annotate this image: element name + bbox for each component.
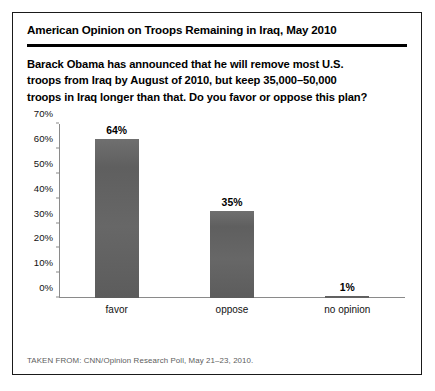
y-axis-tick-label: 40% [13, 182, 59, 193]
y-axis-tick-label: 10% [13, 257, 59, 268]
bar-group: 1%no opinion [299, 124, 395, 298]
chart-plot: 0%10%20%30%40%50%60%70% 64%favor35%oppos… [27, 116, 407, 321]
y-axis-tick-label: 70% [13, 108, 59, 119]
bar-group: 64%favor [69, 124, 165, 298]
source-note: TAKEN FROM: CNN/Opinion Research Poll, M… [27, 356, 253, 365]
bar-no-opinion[interactable] [325, 296, 369, 298]
y-axis-tick-label: 50% [13, 157, 59, 168]
page-title: American Opinion on Troops Remaining in … [27, 13, 407, 37]
bar-series: 64%favor35%oppose1%no opinion [59, 124, 405, 298]
y-axis-tick-label: 0% [13, 282, 59, 293]
bar-value-label: 35% [222, 197, 243, 208]
x-axis-category-label: favor [106, 304, 128, 315]
subtitle-line-1: Barack Obama has announced that he will … [27, 56, 407, 73]
bar-oppose[interactable] [210, 211, 254, 298]
subtitle-line-3: troops in Iraq longer than that. Do you … [27, 89, 407, 106]
bar-value-label: 64% [106, 125, 127, 136]
bar-group: 35%oppose [184, 124, 280, 298]
x-axis-category-label: no opinion [324, 304, 370, 315]
bar-value-label: 1% [340, 282, 355, 293]
figure-frame: American Opinion on Troops Remaining in … [12, 12, 422, 375]
figure-inner: American Opinion on Troops Remaining in … [13, 13, 421, 374]
x-axis-category-label: oppose [216, 304, 249, 315]
subtitle-line-2: troops from Iraq by August of 2010, but … [27, 72, 407, 89]
chart-subtitle: Barack Obama has announced that he will … [27, 56, 407, 106]
title-divider [27, 44, 407, 46]
bar-favor[interactable] [95, 139, 139, 298]
y-axis-tick-label: 20% [13, 232, 59, 243]
y-axis-tick-label: 30% [13, 207, 59, 218]
y-axis-tick-label: 60% [13, 132, 59, 143]
plot-area: 0%10%20%30%40%50%60%70% 64%favor35%oppos… [59, 124, 405, 298]
